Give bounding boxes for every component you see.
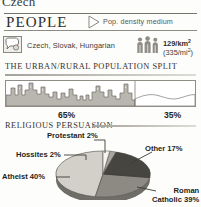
religion-rule (92, 125, 196, 127)
rural-percent: 35% (164, 110, 181, 120)
urban-rural-heading: THE URBAN/RURAL POPULATION SPLIT (5, 62, 177, 71)
pie-label-roman-catholic-line1: Roman (174, 186, 200, 195)
pie-label-atheist: Atheist 40% (2, 172, 45, 181)
urban-rural-split-chart (5, 80, 196, 107)
people-group-icon (136, 36, 160, 54)
urban-percent: 65% (58, 110, 75, 120)
country-name-partial: Czech (2, 0, 35, 6)
density-alt-value: (335/mi (163, 48, 188, 57)
urban-rural-rule (5, 74, 196, 76)
religion-pie-chart: Protestant 2% Hossites 2% Atheist 40% Ot… (0, 130, 201, 207)
almanac-people-page: Czech PEOPLE Pop. density medium Czech, … (0, 0, 201, 207)
population-density-imperial: (335/mi2) (163, 46, 193, 58)
pie-label-hussites: Hossites 2% (16, 150, 61, 159)
speech-bubble-icon (3, 36, 22, 53)
triangle-right-icon (88, 15, 100, 29)
pie-label-other: Other 17% (145, 144, 183, 153)
page-title: PEOPLE (6, 14, 68, 30)
pie-label-protestant: Protestant 2% (47, 131, 98, 140)
density-alt-close: ) (191, 48, 193, 57)
pie-label-roman-catholic: Roman Catholic 39% (152, 186, 199, 204)
urban-rural-percent-row: 65% 35% (0, 110, 201, 121)
header-rule-bottom (4, 30, 197, 31)
density-value-exponent: 2 (188, 38, 191, 44)
pop-density-note: Pop. density medium (103, 17, 173, 26)
pie-label-roman-catholic-line2: Catholic 39% (152, 195, 199, 204)
languages-label: Czech, Slovak, Hungarian (27, 41, 115, 50)
